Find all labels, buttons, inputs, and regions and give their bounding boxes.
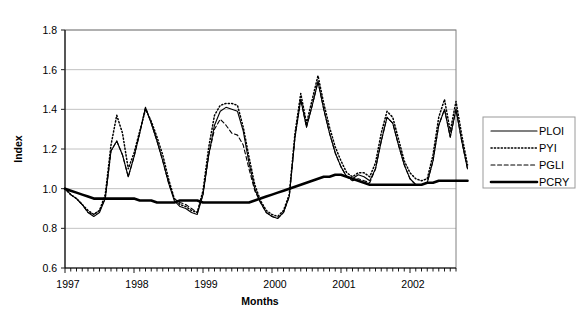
x-tick-label: 1997	[56, 278, 80, 290]
y-tick-label: 1.6	[42, 64, 57, 76]
y-tick-label: 1.2	[42, 143, 57, 155]
legend-label-ploi: PLOI	[539, 125, 564, 137]
y-tick-label: 0.6	[42, 262, 57, 274]
legend-label-pyi: PYI	[539, 142, 557, 154]
x-tick-label: 2000	[263, 278, 287, 290]
y-tick-label: 1.4	[42, 103, 57, 115]
legend-label-pgli: PGLI	[539, 159, 564, 171]
x-tick-label: 1999	[194, 278, 218, 290]
legend-label-pcry: PCRY	[539, 176, 570, 188]
y-tick-label: 1.0	[42, 183, 57, 195]
x-tick-label: 2002	[401, 278, 425, 290]
legend: PLOIPYIPGLIPCRY	[483, 117, 575, 188]
y-tick-label: 0.8	[42, 222, 57, 234]
x-axis-title: Months	[241, 295, 278, 307]
y-tick-label: 1.8	[42, 24, 57, 36]
y-axis-title: Index	[12, 135, 24, 163]
x-tick-label: 1998	[125, 278, 149, 290]
chart-container: 0.60.81.01.21.41.61.8 199719981999200020…	[0, 0, 588, 323]
line-chart: 0.60.81.01.21.41.61.8 199719981999200020…	[0, 0, 588, 323]
x-tick-label: 2001	[332, 278, 356, 290]
